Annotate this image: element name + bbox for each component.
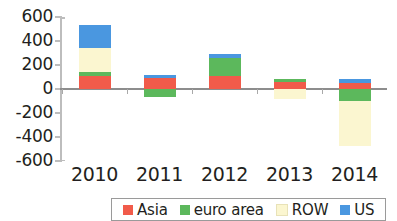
- legend-item-US[interactable]: US: [340, 201, 374, 219]
- bar-segment-Asia-2012[interactable]: [209, 76, 241, 89]
- x-tick: [192, 89, 193, 94]
- bar-segment-ROW-2010[interactable]: [79, 48, 111, 72]
- y-tick-label: 0: [42, 80, 53, 97]
- bar-segment-US-2012[interactable]: [209, 54, 241, 58]
- y-tick: [55, 112, 62, 114]
- bar-group-2012[interactable]: [209, 17, 241, 161]
- bar-segment-euro-area-2011[interactable]: [144, 89, 176, 97]
- bar-group-2014[interactable]: [339, 17, 371, 161]
- x-tick: [127, 89, 128, 94]
- stacked-bar-chart: 6004002000-200-400-600 20102011201220132…: [0, 0, 397, 221]
- bar-group-2010[interactable]: [79, 17, 111, 161]
- bar-group-2011[interactable]: [144, 17, 176, 161]
- y-tick: [55, 64, 62, 66]
- bar-segment-US-2011[interactable]: [144, 75, 176, 78]
- bar-segment-euro-area-2014[interactable]: [339, 89, 371, 101]
- x-tick-label-2014: 2014: [325, 163, 385, 185]
- bar-group-2013[interactable]: [274, 17, 306, 161]
- y-tick: [55, 16, 62, 18]
- bar-segment-Asia-2010[interactable]: [79, 76, 111, 89]
- bar-segment-Asia-2011[interactable]: [144, 78, 176, 89]
- legend-item-Asia[interactable]: Asia: [123, 201, 168, 219]
- bar-segment-euro-area-2012[interactable]: [209, 58, 241, 76]
- legend-swatch-icon: [340, 205, 350, 215]
- bar-segment-euro-area-2013[interactable]: [274, 79, 306, 82]
- legend-label: euro area: [194, 201, 264, 219]
- bar-segment-euro-area-2010[interactable]: [79, 72, 111, 76]
- bar-segment-Asia-2013[interactable]: [274, 82, 306, 89]
- x-tick-label-2011: 2011: [130, 163, 190, 185]
- plot-area: [62, 17, 387, 161]
- y-tick: [55, 136, 62, 138]
- x-tick-label-2010: 2010: [65, 163, 125, 185]
- y-tick-label: 200: [21, 56, 53, 73]
- y-tick-label: -400: [16, 128, 53, 145]
- legend-label: ROW: [292, 201, 328, 219]
- y-tick: [55, 160, 62, 162]
- chart-legend: Asiaeuro areaROWUS: [111, 198, 386, 221]
- y-tick-label: -200: [16, 104, 53, 121]
- legend-item-ROW[interactable]: ROW: [276, 201, 328, 219]
- legend-swatch-icon: [123, 205, 133, 215]
- legend-swatch-icon: [276, 204, 288, 216]
- y-tick: [55, 40, 62, 42]
- y-tick-label: 400: [21, 32, 53, 49]
- bar-segment-US-2010[interactable]: [79, 25, 111, 48]
- x-tick-label-2013: 2013: [260, 163, 320, 185]
- legend-label: Asia: [137, 201, 168, 219]
- bar-segment-ROW-2014[interactable]: [339, 101, 371, 146]
- legend-item-euro-area[interactable]: euro area: [180, 201, 264, 219]
- legend-label: US: [354, 201, 374, 219]
- y-tick-label: -600: [16, 152, 53, 169]
- bar-segment-ROW-2013[interactable]: [274, 89, 306, 99]
- x-tick: [322, 89, 323, 94]
- y-tick-label: 600: [21, 8, 53, 25]
- legend-swatch-icon: [180, 205, 190, 215]
- bar-segment-US-2014[interactable]: [339, 79, 371, 83]
- x-tick: [62, 89, 63, 94]
- x-tick-label-2012: 2012: [195, 163, 255, 185]
- x-tick: [257, 89, 258, 94]
